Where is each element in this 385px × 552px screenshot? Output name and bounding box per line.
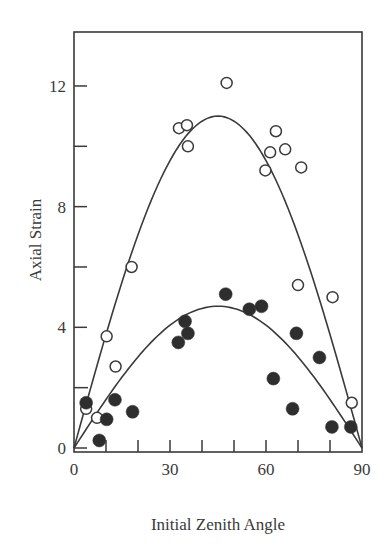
filled-data-point [243,303,256,316]
filled-data-point [344,420,357,433]
filled-data-point [100,413,113,426]
y-axis-label: Axial Strain [26,198,45,281]
filled-data-point [255,300,268,313]
filled-data-point [290,327,303,340]
x-axis-ticks [106,440,330,452]
open-data-point [346,397,357,408]
x-tick-label: 30 [162,460,179,479]
open-data-point [265,147,276,158]
scatter-chart: 04812 0306090 Initial Zenith Angle Axial… [0,0,385,552]
filled-data-point [172,336,185,349]
open-data-point [296,162,307,173]
filled-data-point [80,396,93,409]
plot-frame [74,32,362,452]
x-tick-label: 60 [258,460,275,479]
filled-data-point [267,372,280,385]
data-points [80,77,358,447]
open-data-point [260,165,271,176]
open-data-point [280,144,291,155]
x-tick-label: 90 [354,460,371,479]
filled-data-point [179,315,192,328]
y-tick-label: 12 [49,77,66,96]
filled-data-point [93,434,106,447]
y-tick-label: 4 [58,318,67,337]
x-axis-tick-labels: 0306090 [70,460,371,479]
x-axis-label: Initial Zenith Angle [151,515,285,534]
open-data-point [270,126,281,137]
filled-data-point [181,327,194,340]
open-data-point [181,120,192,131]
open-data-point [126,261,137,272]
filled-data-point [313,351,326,364]
x-tick-label: 0 [70,460,79,479]
y-axis-tick-labels: 04812 [49,77,67,458]
filled-data-point [325,420,338,433]
open-data-point [110,361,121,372]
filled-data-point [286,402,299,415]
open-data-point [221,77,232,88]
y-axis-ticks [74,86,88,448]
filled-data-point [108,393,121,406]
y-tick-label: 8 [58,198,67,217]
y-tick-label: 0 [58,439,67,458]
filled-data-point [126,405,139,418]
open-data-point [327,292,338,303]
fit-curve [74,306,362,448]
filled-data-point [219,288,232,301]
open-data-point [293,280,304,291]
open-data-point [182,141,193,152]
open-data-point [101,331,112,342]
